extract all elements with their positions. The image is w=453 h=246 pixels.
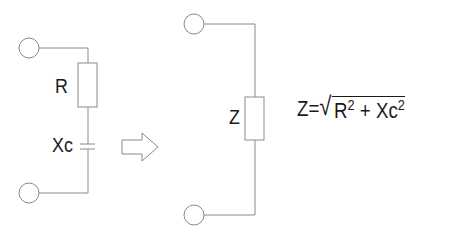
impedance-label: Z	[229, 106, 240, 127]
term2-exp: 2	[398, 96, 405, 113]
terminal-top-right	[184, 14, 204, 34]
formula-lhs: Z=	[297, 96, 319, 122]
right-arrow-icon	[122, 133, 158, 161]
capacitor-label: Xc	[52, 134, 73, 155]
impedance-circuit	[184, 14, 264, 225]
resistor-label: R	[55, 75, 68, 96]
series-rc-circuit	[19, 38, 97, 203]
term1-exp: 2	[348, 96, 355, 113]
sqrt-icon: √	[319, 93, 331, 119]
formula-radicand: R2 + Xc2	[331, 96, 404, 124]
impedance-z	[245, 97, 264, 140]
formula-operator: +	[355, 98, 376, 123]
term1-base: R	[334, 98, 348, 123]
terminal-bottom-left	[19, 183, 39, 203]
term2-base: Xc	[376, 98, 398, 123]
resistor-r	[78, 63, 97, 107]
terminal-bottom-right	[184, 205, 204, 225]
terminal-top-left	[19, 38, 39, 58]
impedance-formula: Z= √ R2 + Xc2	[297, 96, 405, 124]
